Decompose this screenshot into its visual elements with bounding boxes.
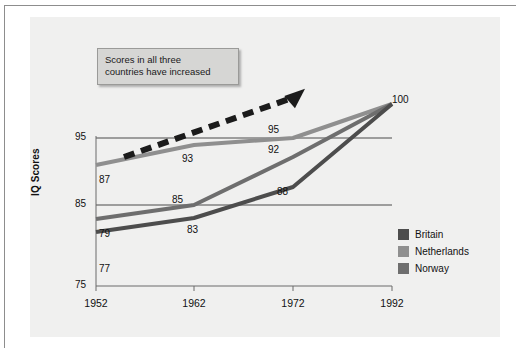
value-label-norway-1952: 79 (99, 228, 110, 239)
value-label-norway-1962: 85 (172, 194, 183, 205)
dashed-trend-arrow-icon (124, 89, 310, 157)
x-tick-label-1952: 1952 (72, 297, 120, 309)
legend-swatch-norway (398, 263, 409, 274)
legend-item-norway[interactable]: Norway (398, 260, 490, 276)
legend-item-britain[interactable]: Britain (398, 226, 490, 242)
legend-item-netherlands[interactable]: Netherlands (398, 243, 490, 259)
legend-swatch-britain (398, 229, 409, 240)
callout-box: Scores in all three countries have incre… (97, 48, 239, 85)
legend-label-britain: Britain (415, 229, 443, 240)
value-label-endpoint-1992: 100 (392, 94, 409, 105)
callout-line-1: Scores in all three (105, 54, 231, 66)
x-tick-label-1992: 1992 (368, 297, 416, 309)
value-label-netherlands-1952: 87 (99, 174, 110, 185)
value-label-britain-1952: 77 (99, 263, 110, 274)
y-tick-label-85: 85 (62, 198, 86, 209)
y-tick-label-95: 95 (62, 131, 86, 142)
value-label-netherlands-1962: 93 (182, 153, 193, 164)
value-label-norway-1972: 92 (268, 144, 279, 155)
x-tick-label-1972: 1972 (269, 297, 317, 309)
legend-swatch-netherlands (398, 246, 409, 257)
y-tick-label-75: 75 (62, 279, 86, 290)
legend-label-netherlands: Netherlands (415, 246, 469, 257)
value-label-netherlands-1972: 95 (268, 124, 279, 135)
chart-page: Scores in all three countries have incre… (0, 0, 517, 349)
callout-line-2: countries have increased (105, 66, 231, 78)
chart-legend: Britain Netherlands Norway (398, 226, 490, 277)
y-axis-title: IQ Scores (30, 148, 41, 196)
x-tick-label-1962: 1962 (170, 297, 218, 309)
value-label-britain-1972: 88 (277, 186, 288, 197)
legend-label-norway: Norway (415, 263, 449, 274)
value-label-britain-1962: 83 (187, 224, 198, 235)
